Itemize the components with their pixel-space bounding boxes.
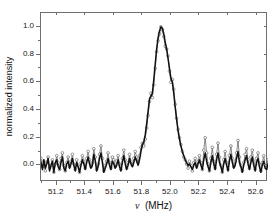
x-tick-mark [256, 181, 257, 185]
y-tick-mark-right [264, 81, 267, 82]
y-tick-label: 0.8 [23, 50, 34, 58]
y-tick-mark [36, 109, 40, 110]
y-tick-mark-right [264, 26, 267, 27]
figure-container: normalized intensity 0.00.20.40.60.81.05… [0, 0, 276, 224]
series-measured-spectrum [41, 26, 268, 174]
x-tick-mark-top [84, 12, 85, 15]
x-tick-mark-top [198, 12, 199, 15]
y-tick-mark [36, 137, 40, 138]
y-tick-label: 0.0 [23, 160, 34, 168]
y-minor-tick-mark [38, 151, 40, 152]
x-tick-mark [113, 181, 114, 185]
x-axis-title: ν (MHz) [40, 200, 267, 212]
x-tick-mark [56, 181, 57, 185]
y-tick-mark [36, 81, 40, 82]
x-tick-label: 51.8 [134, 188, 150, 196]
y-tick-mark [36, 54, 40, 55]
x-minor-tick-mark [41, 181, 42, 183]
x-tick-mark [84, 181, 85, 185]
y-minor-tick-mark [38, 123, 40, 124]
x-tick-mark [170, 181, 171, 185]
plot-svg [41, 13, 268, 182]
x-tick-mark-top [141, 12, 142, 15]
y-axis-title: normalized intensity [3, 12, 15, 181]
y-tick-mark-right [264, 164, 267, 165]
y-tick-label: 0.4 [23, 105, 34, 113]
y-tick-mark [36, 26, 40, 27]
x-minor-tick-mark [184, 181, 185, 183]
x-tick-label: 52.4 [219, 188, 235, 196]
x-tick-mark-top [113, 12, 114, 15]
x-minor-tick-mark [213, 181, 214, 183]
x-axis-symbol: ν [135, 200, 139, 211]
x-tick-label: 51.4 [76, 188, 92, 196]
y-tick-mark-right [264, 109, 267, 110]
y-minor-tick-mark [38, 67, 40, 68]
y-tick-label: 0.6 [23, 77, 34, 85]
y-tick-mark [36, 164, 40, 165]
x-minor-tick-mark [99, 181, 100, 183]
x-tick-label: 51.6 [105, 188, 121, 196]
x-tick-label: 52.2 [191, 188, 207, 196]
x-tick-mark [198, 181, 199, 185]
x-tick-label: 51.2 [48, 188, 64, 196]
x-minor-tick-mark [127, 181, 128, 183]
x-tick-mark-top [256, 12, 257, 15]
y-tick-mark-right [264, 54, 267, 55]
x-tick-mark-top [227, 12, 228, 15]
y-tick-label: 0.2 [23, 133, 34, 141]
x-minor-tick-mark [70, 181, 71, 183]
plot-area [40, 12, 267, 181]
x-tick-label: 52.0 [162, 188, 178, 196]
x-tick-mark [141, 181, 142, 185]
x-tick-mark [227, 181, 228, 185]
y-minor-tick-mark [38, 40, 40, 41]
x-tick-label: 52.6 [248, 188, 264, 196]
x-minor-tick-mark [156, 181, 157, 183]
series-fit-line [41, 27, 268, 172]
x-minor-tick-mark [241, 181, 242, 183]
y-tick-mark-right [264, 137, 267, 138]
y-tick-label: 1.0 [23, 22, 34, 30]
x-tick-mark-top [170, 12, 171, 15]
x-axis-units: (MHz) [145, 200, 172, 211]
y-minor-tick-mark [38, 95, 40, 96]
x-tick-mark-top [56, 12, 57, 15]
